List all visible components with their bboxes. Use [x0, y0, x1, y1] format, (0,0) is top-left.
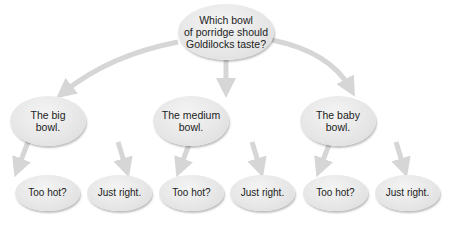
node-text-line: The baby	[316, 109, 360, 121]
node-text-line: bowl.	[316, 121, 360, 133]
node-label: Just right.	[98, 187, 141, 199]
medium-bowl-node: The medium bowl.	[153, 96, 229, 146]
baby-bowl-just-right-node: Just right.	[375, 175, 440, 211]
node-text-line: bowl.	[162, 121, 220, 133]
arrow-root-to-big-bowl	[64, 42, 178, 92]
root-question-node: Which bowl of porridge should Goldilocks…	[178, 4, 274, 60]
big-bowl-node: The big bowl.	[10, 96, 86, 146]
node-label: Just right.	[386, 187, 429, 199]
baby-bowl-too-hot-node: Too hot?	[303, 175, 368, 211]
node-label: Just right.	[241, 187, 284, 199]
big-bowl-too-hot-node: Too hot?	[15, 175, 80, 211]
big-bowl-just-right-node: Just right.	[87, 175, 152, 211]
arrow-medium-to-just-right	[252, 142, 260, 168]
node-text-line: Goldilocks taste?	[184, 38, 268, 50]
baby-bowl-node: The baby bowl.	[300, 96, 376, 146]
arrow-baby-to-just-right	[396, 142, 404, 168]
arrow-baby-to-too-hot	[320, 142, 330, 168]
arrow-root-to-baby-bowl	[272, 40, 350, 88]
node-label: Too hot?	[316, 187, 354, 199]
node-label: Too hot?	[172, 187, 210, 199]
node-text-line: bowl.	[30, 121, 65, 133]
node-label: Too hot?	[28, 187, 66, 199]
arrow-big-to-just-right	[118, 142, 126, 168]
arrow-big-to-too-hot	[18, 142, 28, 168]
node-text-line: of porridge should	[184, 26, 268, 38]
node-text-line: Which bowl	[184, 14, 268, 26]
medium-bowl-just-right-node: Just right.	[230, 175, 295, 211]
node-text-line: The big	[30, 109, 65, 121]
medium-bowl-too-hot-node: Too hot?	[159, 175, 224, 211]
node-text-line: The medium	[162, 109, 220, 121]
